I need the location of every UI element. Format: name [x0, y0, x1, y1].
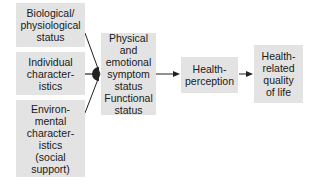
- box-health-related-quality-of-life: Health- related quality of life: [254, 45, 303, 103]
- junction-dot: [92, 67, 99, 81]
- box-biological-status: Biological/ physiological status: [16, 3, 85, 47]
- box-symptom-functional-status: Physical and emotional symptom status Fu…: [101, 33, 156, 115]
- arrow-head-1: [173, 71, 180, 77]
- arrow-head-2: [246, 71, 253, 77]
- box-individual-characteristics: Individual character- istics: [16, 52, 85, 95]
- box-environmental-characteristics: Environ- mental character- istics (socia…: [16, 100, 85, 177]
- box-health-perception: Health- perception: [181, 57, 238, 93]
